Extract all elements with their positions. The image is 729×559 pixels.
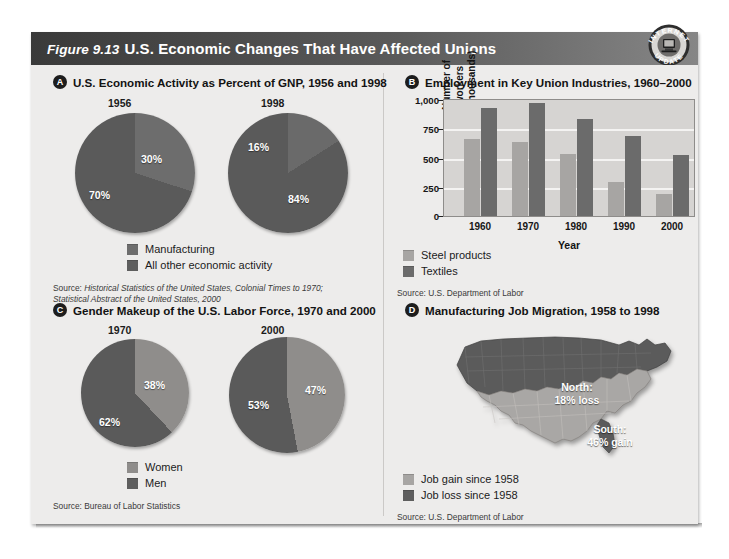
panel-d-source: Source: U.S. Department of Labor — [397, 512, 687, 523]
panel-c: C Gender Makeup of the U.S. Labor Force,… — [45, 303, 375, 519]
panel-c-chart-0-year: 1970 — [108, 324, 131, 336]
panel-a-pie-1998-graphic — [228, 113, 348, 233]
bar-steel-2000[interactable] — [656, 194, 672, 216]
panel-b-source-word: Source: — [397, 288, 426, 298]
panel-d-badge: D — [405, 303, 419, 317]
map-label-south-line1: South: — [593, 423, 626, 435]
panel-b-legend-swatch-0 — [403, 250, 414, 261]
panel-a-legend-swatch-1 — [127, 260, 138, 271]
panel-b-legend-item-steel[interactable]: Steel products — [403, 249, 491, 261]
panel-c-title-text: Gender Makeup of the U.S. Labor Force, 1… — [73, 304, 376, 317]
bar-textiles-1970[interactable] — [529, 103, 545, 216]
bar-textiles-1990[interactable] — [625, 136, 641, 216]
panel-c-legend-label-1: Men — [145, 477, 166, 489]
panel-b-source-line1: U.S. Department of Labor — [428, 288, 523, 298]
panel-a-badge: A — [53, 75, 67, 89]
panel-a-source-word: Source: — [53, 283, 82, 293]
panel-a-legend-item-all-other[interactable]: All other economic activity — [127, 259, 272, 271]
panel-a-pie-1998: 16% 84% — [228, 113, 352, 237]
internet-update-badge[interactable]: INTERNET UPDATE — [642, 18, 696, 72]
panel-d-legend-label-1: Job loss since 1958 — [421, 489, 518, 501]
panel-d-legend-item-job-gain[interactable]: Job gain since 1958 — [403, 473, 519, 485]
map-label-north-line2: 18% loss — [555, 394, 600, 406]
panel-a-title: A U.S. Economic Activity as Percent of G… — [53, 75, 375, 89]
bar-chart-ytick-250: 250 — [423, 182, 439, 193]
figure-container: Figure 9.13U.S. Economic Changes That Ha… — [31, 32, 698, 524]
panel-d: D Manufacturing Job Migration, 1958 to 1… — [397, 303, 697, 519]
panel-d-legend-swatch-0 — [403, 474, 414, 485]
bar-chart-y-axis: 1,000 750 500 250 0 — [409, 99, 439, 217]
figure-header-text: Figure 9.13U.S. Economic Changes That Ha… — [47, 40, 496, 57]
panel-d-title: D Manufacturing Job Migration, 1958 to 1… — [405, 303, 697, 317]
panel-a-title-text: U.S. Economic Activity as Percent of GNP… — [73, 76, 387, 89]
map-label-north: North: 18% loss — [537, 381, 617, 406]
panel-a: A U.S. Economic Activity as Percent of G… — [45, 75, 375, 291]
panel-c-legend-swatch-0 — [127, 462, 138, 473]
bar-chart-ytick-1000: 1,000 — [415, 95, 439, 106]
panel-a-year-labels: 1956 1998 — [45, 97, 375, 111]
panel-c-pie-2000-graphic — [229, 337, 345, 453]
bar-steel-1960[interactable] — [464, 139, 480, 216]
panel-d-legend-label-0: Job gain since 1958 — [421, 473, 519, 485]
bar-steel-1970[interactable] — [512, 142, 528, 216]
panel-a-legend-label-1: All other economic activity — [145, 259, 272, 271]
bar-chart-ytick-750: 750 — [423, 124, 439, 135]
panel-c-title: C Gender Makeup of the U.S. Labor Force,… — [53, 303, 375, 317]
panel-b-legend-label-0: Steel products — [421, 249, 491, 261]
panel-a-source-line1: Historical Statistics of the United Stat… — [84, 283, 323, 293]
panel-d-source-word: Source: — [397, 512, 426, 522]
panel-b-legend-swatch-1 — [403, 266, 414, 277]
panel-d-source-line1: U.S. Department of Labor — [428, 512, 523, 522]
panel-d-legend-item-job-loss[interactable]: Job loss since 1958 — [403, 489, 519, 501]
panel-c-pie-1970-slice-1-value: 62% — [99, 416, 120, 428]
panel-a-pie-1998-slice-0-value: 16% — [248, 141, 269, 153]
panel-c-pie-2000: 47% 53% — [229, 337, 349, 457]
panel-c-badge: C — [53, 303, 67, 317]
figure-number: Figure 9.13 — [47, 42, 119, 57]
bar-chart-ytick-500: 500 — [423, 153, 439, 164]
panel-c-pie-1970-slice-0-value: 38% — [144, 379, 165, 391]
panel-b-legend-label-1: Textiles — [421, 265, 458, 277]
panel-c-pie-2000-slice-1-value: 53% — [248, 399, 269, 411]
panel-a-legend-label-0: Manufacturing — [145, 243, 215, 255]
panel-b-legend: Steel products Textiles — [403, 249, 491, 281]
panel-a-pie-1998-slice-1-value: 84% — [288, 193, 309, 205]
bar-textiles-2000[interactable] — [673, 155, 689, 216]
panel-d-legend-swatch-1 — [403, 490, 414, 501]
panel-a-pie-1956: 30% 70% — [75, 113, 199, 237]
panel-divider — [383, 73, 384, 516]
panel-c-year-labels: 1970 2000 — [45, 324, 375, 338]
map-label-north-line1: North: — [561, 381, 593, 393]
panel-a-legend-item-manufacturing[interactable]: Manufacturing — [127, 243, 272, 255]
panel-c-legend-item-women[interactable]: Women — [127, 461, 183, 473]
panel-a-chart-1-year: 1998 — [261, 97, 284, 109]
panel-c-pie-2000-slice-0-value: 47% — [305, 384, 326, 396]
panel-b-legend-item-textiles[interactable]: Textiles — [403, 265, 491, 277]
bar-textiles-1980[interactable] — [577, 119, 593, 216]
panel-b-source: Source: U.S. Department of Labor — [397, 288, 687, 299]
figure-header-bar: Figure 9.13U.S. Economic Changes That Ha… — [31, 32, 698, 65]
panel-b: B Employment in Key Union Industries, 19… — [397, 75, 697, 291]
panel-c-pie-1970-graphic — [81, 339, 189, 447]
panel-c-legend-swatch-1 — [127, 478, 138, 489]
panel-c-pie-1970: 38% 62% — [81, 339, 193, 451]
panel-c-source-word: Source: — [53, 501, 82, 511]
panel-a-legend-swatch-0 — [127, 244, 138, 255]
figure-body: A U.S. Economic Activity as Percent of G… — [31, 65, 698, 524]
map-label-south-line2: 46% gain — [587, 436, 633, 448]
bar-chart-xtick-2000: 2000 — [643, 221, 701, 232]
panel-a-pie-1956-slice-1-value: 70% — [89, 189, 110, 201]
bar-steel-1980[interactable] — [560, 154, 576, 216]
bar-textiles-1960[interactable] — [481, 108, 497, 216]
panel-c-legend-label-0: Women — [145, 461, 183, 473]
map-label-south: South: 46% gain — [567, 423, 653, 448]
panel-c-chart-1-year: 2000 — [261, 324, 284, 336]
panel-c-legend-item-men[interactable]: Men — [127, 477, 183, 489]
bar-chart-plot-area — [443, 99, 695, 217]
panel-c-source-line1: Bureau of Labor Statistics — [84, 501, 180, 511]
panel-c-source: Source: Bureau of Labor Statistics — [53, 501, 373, 512]
bar-steel-1990[interactable] — [608, 182, 624, 216]
panel-a-chart-0-year: 1956 — [108, 97, 131, 109]
panel-d-legend: Job gain since 1958 Job loss since 1958 — [403, 473, 519, 505]
bar-chart: Number of workers(in thousands) 1,000 75… — [443, 99, 695, 229]
